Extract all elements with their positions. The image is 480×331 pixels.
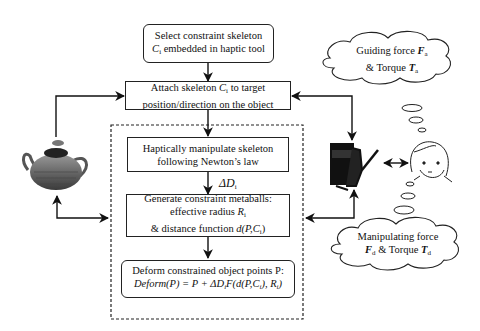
thought-bubbles-lower	[394, 182, 415, 214]
arrow-haptic-generate	[306, 190, 354, 218]
select-line-2: Ci embedded in haptic tool	[152, 42, 265, 59]
arrow-teapot-generate	[57, 196, 108, 218]
sub-a: a	[415, 67, 418, 75]
delta-d-text: ΔD	[219, 176, 235, 190]
attach-post: to target	[228, 82, 265, 93]
manipulating-line-2: Fd & Torque Td	[352, 243, 444, 260]
attach-line-2: position/direction on the object	[143, 98, 274, 111]
formula-a: Deform(P) = P + ΔD	[134, 278, 224, 289]
generate-pre3: & distance function	[151, 223, 236, 234]
user-face-image	[411, 142, 452, 182]
generate-pre: effective radius	[170, 206, 237, 217]
generate-metaballs-box: Generate constraint metaballs: effective…	[126, 194, 290, 237]
generate-line-1: Generate constraint metaballs:	[144, 192, 272, 205]
teapot-model-image	[24, 140, 87, 190]
manipulate-skeleton-box: Haptically manipulate skeleton following…	[127, 137, 289, 172]
manipulating-line-1: Manipulating force	[352, 230, 444, 243]
guiding-line-1: Guiding force Fa	[352, 44, 432, 61]
arrow-haptic-to-attach	[292, 96, 352, 140]
generate-line-3: & distance function d(P,Ci)	[151, 222, 265, 239]
attach-pre: Attach skeleton	[151, 82, 219, 93]
guiding-pre: Guiding force	[356, 45, 417, 56]
select-rest: embedded in haptic tool	[161, 43, 265, 54]
formula-b: F(d(P,C	[226, 278, 259, 289]
var-f: F	[418, 45, 425, 56]
var-f: F	[365, 244, 372, 255]
sub-i: i	[244, 211, 246, 219]
attach-line-1: Attach skeleton Ci to target	[151, 81, 265, 98]
sub-d: d	[427, 249, 431, 257]
deform-line-1: Deform constrained object points P:	[132, 264, 284, 277]
arrow-teapot-to-attach	[56, 96, 124, 137]
delta-d-label: ΔDi	[219, 176, 237, 191]
manip-mid: & Torque	[376, 244, 421, 255]
var-d: d(P,C	[236, 223, 259, 234]
manipulate-line-1: Haptically manipulate skeleton	[143, 142, 274, 155]
guiding-force-text: Guiding force Fa & Torque Ta	[352, 44, 432, 78]
formula-c: ), R	[261, 278, 276, 289]
generate-post3: )	[262, 223, 266, 234]
sub-a: a	[425, 50, 428, 58]
formula-d: )	[279, 278, 283, 289]
haptic-device-image	[330, 143, 378, 190]
deform-points-box: Deform constrained object points P: Defo…	[121, 260, 295, 298]
guiding-line-2: & Torque Ta	[352, 61, 432, 78]
delta-d-sub: i	[235, 183, 237, 191]
select-line-1: Select constraint skeleton	[155, 29, 262, 42]
manipulate-line-2: following Newton’s law	[157, 155, 259, 168]
generate-line-2: effective radius Ri	[170, 205, 246, 222]
attach-skeleton-box: Attach skeleton Ci to target position/di…	[125, 81, 291, 110]
manipulating-force-text: Manipulating force Fd & Torque Td	[352, 230, 444, 260]
deform-formula: Deform(P) = P + ΔDiF(d(P,Ci), Ri)	[134, 277, 282, 294]
guiding-pre2: & Torque	[366, 62, 409, 73]
select-skeleton-box: Select constraint skeleton Ci embedded i…	[143, 24, 274, 63]
thought-bubbles-upper	[402, 105, 426, 133]
